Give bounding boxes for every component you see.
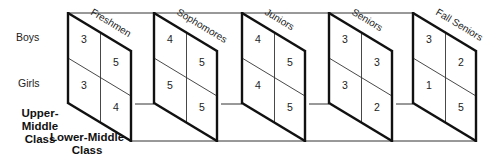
- cell-boys-upper-middle: 3: [342, 33, 348, 45]
- cell-girls-lower-middle: 5: [199, 101, 205, 113]
- cell-girls-lower-middle: 5: [287, 101, 293, 113]
- cell-girls-upper-middle: 4: [255, 79, 261, 91]
- cell-girls-upper-middle: 3: [81, 79, 87, 91]
- cell-boys-lower-middle: 5: [287, 56, 293, 68]
- cell-boys-upper-middle: 4: [167, 33, 173, 45]
- cell-boys-lower-middle: 2: [458, 56, 464, 68]
- cell-boys-lower-middle: 5: [199, 56, 205, 68]
- cell-girls-upper-middle: 5: [167, 79, 173, 91]
- cell-girls-lower-middle: 4: [113, 101, 119, 113]
- grade-panels-diagram: Freshmen3534Sophomores4555Juniors4545Sen…: [0, 0, 489, 160]
- cell-boys-lower-middle: 5: [113, 56, 119, 68]
- cell-boys-lower-middle: 3: [374, 56, 380, 68]
- cell-girls-upper-middle: 3: [342, 79, 348, 91]
- cell-boys-upper-middle: 3: [426, 33, 432, 45]
- cell-girls-lower-middle: 5: [458, 101, 464, 113]
- cell-girls-lower-middle: 2: [374, 101, 380, 113]
- cell-boys-upper-middle: 3: [81, 33, 87, 45]
- cell-girls-upper-middle: 1: [426, 79, 432, 91]
- cell-boys-upper-middle: 4: [255, 33, 261, 45]
